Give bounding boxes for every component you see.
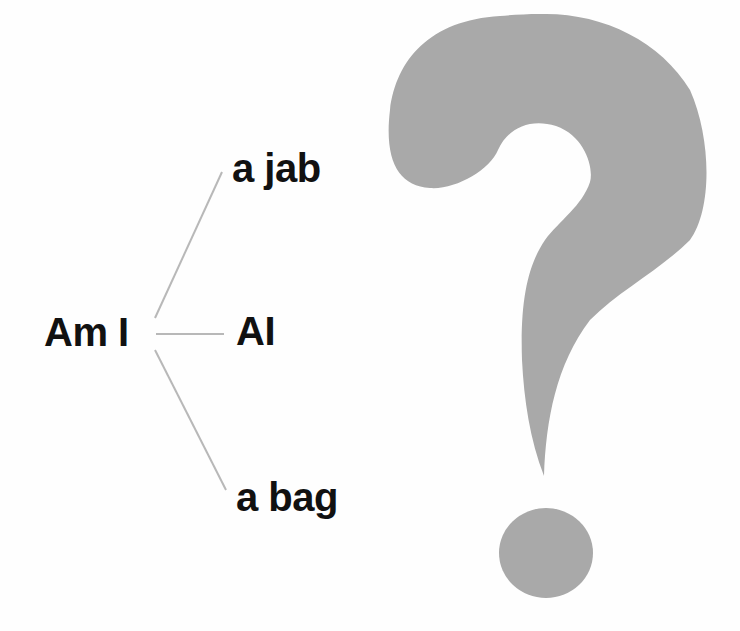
connector-line-a-bag [155,350,226,490]
branch-label-ai: AI [236,311,275,351]
branch-label-a-jab: a jab [232,148,321,188]
branch-label-a-bag: a bag [236,477,338,517]
root-label: Am I [44,312,129,352]
connector-line-a-jab [155,172,222,318]
diagram-canvas: Am I a jab AI a bag [0,0,740,631]
